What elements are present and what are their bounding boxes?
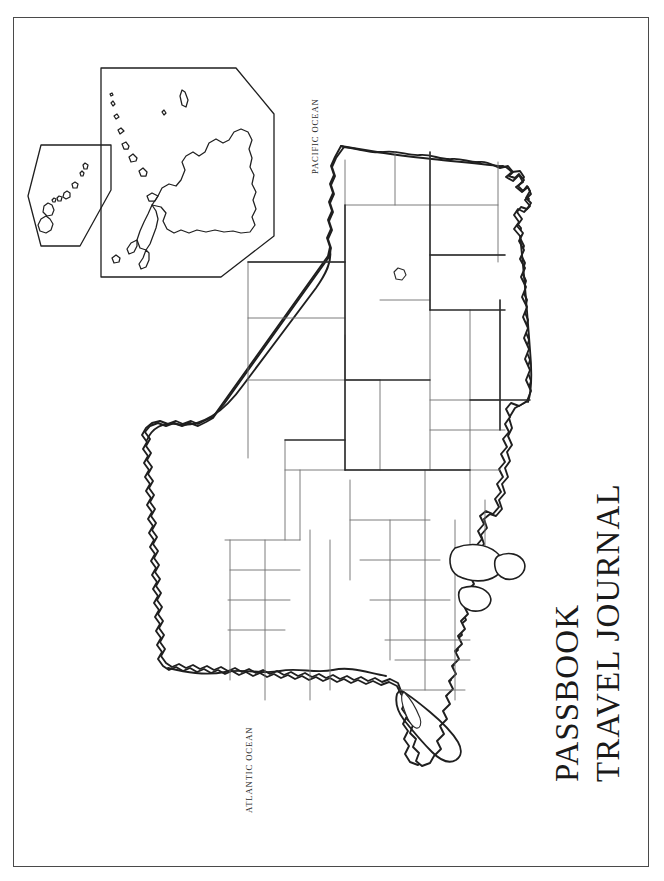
atlantic-ocean-label: Atlantic Ocean — [244, 727, 254, 813]
hawaii-islands — [38, 163, 88, 233]
pacific-ocean-label: Pacific Ocean — [310, 98, 320, 174]
alaska-landmass — [110, 90, 256, 269]
us-map-illustration — [0, 0, 664, 881]
passbook-cover-page: Travel Journal Passbook Pacific Ocean At… — [0, 0, 664, 881]
great-lakes — [450, 545, 525, 612]
